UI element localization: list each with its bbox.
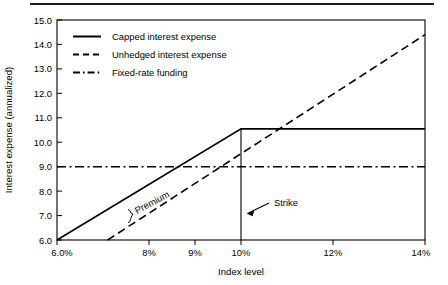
x-tick-label: 10% <box>232 247 251 258</box>
x-tick-label: 12% <box>324 247 343 258</box>
chart-canvas: 15.0 14.0 13.0 12.0 11.0 10.0 9.0 8.0 7.… <box>0 0 448 285</box>
y-tick-labels: 15.0 14.0 13.0 12.0 11.0 10.0 9.0 8.0 7.… <box>34 15 52 246</box>
y-tick-label: 12.0 <box>34 88 52 99</box>
y-tick-marks <box>57 20 62 240</box>
chart-legend: Capped interest expense Unhedged interes… <box>73 31 227 78</box>
legend-item-label: Capped interest expense <box>112 31 216 42</box>
x-tick-labels: 6.0% 8% 9% 10% 12% 14% <box>51 247 430 258</box>
x-tick-label: 14% <box>412 247 431 258</box>
y-tick-label: 7.0 <box>39 210 52 221</box>
legend-item-label: Fixed-rate funding <box>112 67 188 78</box>
x-tick-label: 9% <box>188 247 202 258</box>
x-axis-title: Index level <box>218 266 264 277</box>
y-tick-label: 15.0 <box>34 15 52 26</box>
legend-item-label: Unhedged interest expense <box>112 49 227 60</box>
y-tick-label: 9.0 <box>39 161 52 172</box>
strike-annotation-label: Strike <box>274 197 298 208</box>
y-tick-label: 13.0 <box>34 63 52 74</box>
x-tick-label: 8% <box>142 247 156 258</box>
series-unhedged-interest-expense <box>108 35 425 240</box>
premium-brace-icon <box>128 210 133 223</box>
y-tick-label: 10.0 <box>34 137 52 148</box>
y-axis-title: Interest expense (annualized) <box>3 67 14 193</box>
x-tick-label: 6.0% <box>51 247 72 258</box>
x-tick-marks <box>57 240 425 245</box>
y-tick-label: 8.0 <box>39 186 52 197</box>
strike-arrow-icon <box>247 203 269 216</box>
y-tick-label: 14.0 <box>34 39 52 50</box>
y-tick-label: 11.0 <box>34 112 52 123</box>
y-tick-label: 6.0 <box>39 235 52 246</box>
chart-figure: 15.0 14.0 13.0 12.0 11.0 10.0 9.0 8.0 7.… <box>0 0 448 285</box>
